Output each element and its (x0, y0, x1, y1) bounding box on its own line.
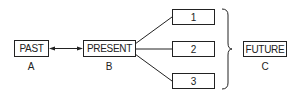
future-caption: C (255, 61, 275, 72)
past-box: PAST (14, 40, 49, 57)
option-3-box: 3 (172, 73, 215, 89)
present-box: PRESENT (83, 40, 136, 57)
option-3-label: 3 (191, 76, 196, 87)
future-box: FUTURE (243, 41, 287, 57)
branch-line-3 (135, 54, 172, 81)
option-1-box: 1 (172, 9, 215, 25)
option-2-box: 2 (172, 41, 215, 57)
present-label: PRESENT (87, 43, 132, 54)
option-1-label: 1 (191, 12, 196, 23)
option-2-label: 2 (191, 44, 196, 55)
present-caption: B (99, 61, 119, 72)
branch-line-1 (135, 17, 172, 44)
past-label: PAST (19, 43, 43, 54)
future-label: FUTURE (246, 44, 285, 55)
curly-brace-icon (222, 9, 232, 89)
arrow-head-left-icon (49, 47, 55, 51)
past-caption: A (21, 61, 41, 72)
